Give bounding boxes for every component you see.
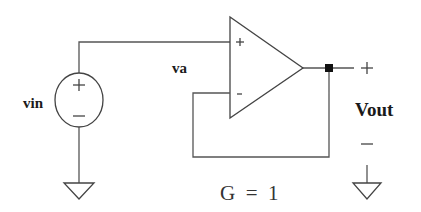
schematic-svg: vin va Vout G = 1 <box>0 0 421 212</box>
voltage-source-icon <box>55 73 103 127</box>
ground-left-icon <box>64 183 94 199</box>
label-gain: G = 1 <box>220 181 279 205</box>
opamp-icon <box>230 17 303 118</box>
label-vin: vin <box>23 95 44 111</box>
wire-vin-to-noninverting-input <box>79 42 230 73</box>
ground-right-icon <box>353 183 381 199</box>
output-node-icon <box>325 64 333 72</box>
label-vout: Vout <box>355 99 394 120</box>
label-va: va <box>172 60 188 76</box>
output-plus-icon <box>361 62 373 74</box>
wire-feedback-loop <box>193 68 329 157</box>
circuit-diagram: vin va Vout G = 1 <box>0 0 421 212</box>
